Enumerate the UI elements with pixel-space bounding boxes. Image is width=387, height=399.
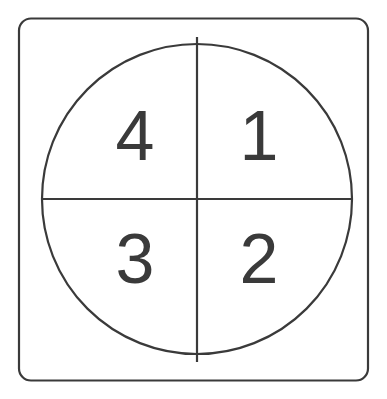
quadrant-label-1: 1 xyxy=(240,97,279,175)
quadrant-label-3: 3 xyxy=(116,220,155,298)
quadrant-diagram: 4 1 3 2 xyxy=(0,0,387,399)
diagram-canvas: 4 1 3 2 xyxy=(0,0,387,399)
quadrant-label-4: 4 xyxy=(116,97,155,175)
quadrant-label-2: 2 xyxy=(240,220,279,298)
